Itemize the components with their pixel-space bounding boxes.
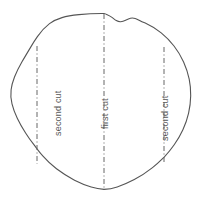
cut-label-first-cut: first cut — [101, 98, 110, 129]
cutting-diagram: second cut first cut second cut — [0, 0, 206, 204]
cut-label-second-cut-right: second cut — [161, 95, 170, 141]
cut-label-second-cut-left: second cut — [54, 90, 63, 136]
